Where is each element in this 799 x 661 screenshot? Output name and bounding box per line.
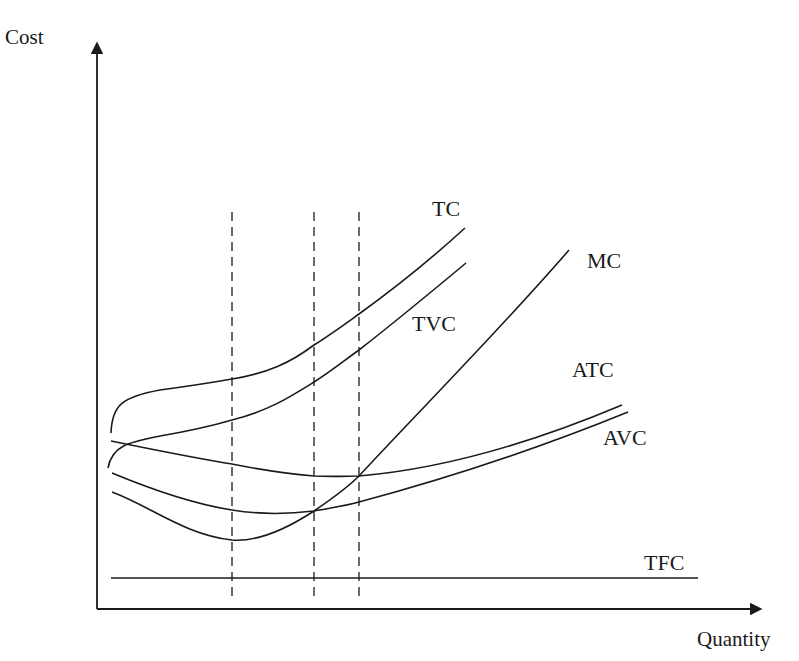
cost-curves-diagram: Cost Quantity TC TVC MC ATC AVC TFC [0, 0, 799, 661]
tfc-label: TFC [644, 550, 684, 575]
avc-label: AVC [603, 425, 647, 450]
tvc-curve [108, 263, 466, 468]
avc-curve [112, 412, 628, 514]
mc-curve [112, 250, 569, 540]
atc-label: ATC [572, 357, 614, 382]
tvc-label: TVC [412, 311, 456, 336]
atc-curve [111, 405, 622, 476]
x-axis-label: Quantity [697, 627, 771, 651]
y-axis-label: Cost [5, 25, 44, 49]
tc-label: TC [432, 196, 460, 221]
mc-label: MC [587, 248, 621, 273]
